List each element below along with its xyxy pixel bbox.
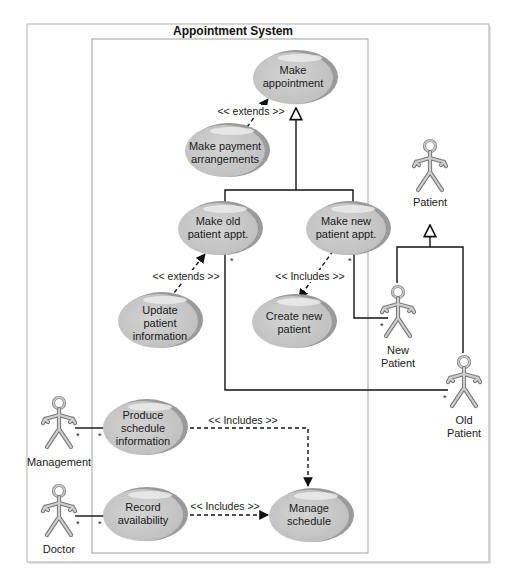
multiplicity: * [348, 256, 352, 266]
actor-label: New [387, 344, 409, 356]
use-case-label: Make [280, 64, 307, 76]
use-case-label: schedule [287, 515, 331, 527]
use-case-label: patient appt. [188, 228, 249, 240]
use-case-label: Update [142, 304, 177, 316]
use-case-label: information [133, 330, 187, 342]
actor-label: Patient [413, 196, 447, 208]
multiplicity: * [380, 321, 384, 331]
use-case-label: Make payment [189, 140, 261, 152]
actor-label: Management [27, 456, 91, 468]
multiplicity: * [98, 431, 102, 441]
actor-label: Doctor [43, 543, 76, 555]
stereotype-extends-update: << extends >> [152, 270, 219, 282]
use-case-diagram: Appointment System << extends >> << exte… [0, 0, 507, 582]
stereotype-includes-create: << Includes >> [275, 270, 344, 282]
use-case-label: patient [143, 317, 176, 329]
use-case-label: Produce [123, 409, 164, 421]
multiplicity: * [98, 519, 102, 529]
use-case-label: Make old [196, 215, 241, 227]
multiplicity: * [76, 431, 80, 441]
use-case-label: availability [118, 514, 169, 526]
multiplicity: * [76, 519, 80, 529]
actor-label: Old [455, 414, 472, 426]
use-case-label: patient appt. [316, 228, 377, 240]
stereotype-includes-record: << Includes >> [190, 500, 259, 512]
use-case-label: Record [125, 501, 160, 513]
use-case-label: schedule [121, 422, 165, 434]
use-case-label: patient [277, 323, 310, 335]
use-case-label: Create new [266, 310, 322, 322]
use-case-label: Manage [289, 502, 329, 514]
use-case-label: arrangements [191, 153, 259, 165]
multiplicity: * [230, 256, 234, 266]
use-case-label: information [116, 435, 170, 447]
multiplicity: * [443, 393, 447, 403]
stereotype-includes-produce: << Includes >> [208, 414, 277, 426]
use-case-label: Make new [321, 215, 371, 227]
system-title: Appointment System [173, 24, 293, 38]
actor-label: Patient [381, 357, 415, 369]
use-case-label: appointment [263, 77, 324, 89]
stereotype-extends-payment: << extends >> [217, 105, 284, 117]
actor-label: Patient [447, 427, 481, 439]
